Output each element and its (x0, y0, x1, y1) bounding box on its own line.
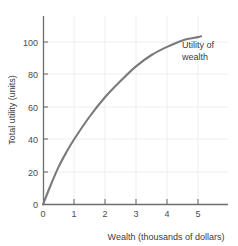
x-tick-label-4: 4 (164, 209, 169, 219)
y-tick-label-100: 100 (23, 38, 38, 48)
y-tick-label-20: 20 (28, 168, 38, 178)
x-tick-label-2: 2 (102, 209, 107, 219)
curve-annotation-line-1: Utility of (182, 40, 215, 50)
utility-of-wealth-chart: 100 80 60 40 20 0 0 1 2 3 4 5 Total util… (0, 0, 238, 246)
chart-canvas: 100 80 60 40 20 0 0 1 2 3 4 5 Total util… (0, 0, 238, 246)
y-tick-label-40: 40 (28, 135, 38, 145)
y-tick-label-0: 0 (33, 200, 38, 210)
y-tick-label-60: 60 (28, 103, 38, 113)
y-axis-title: Total utility (units) (7, 75, 17, 145)
x-tick-label-3: 3 (133, 209, 138, 219)
x-tick-label-0: 0 (40, 209, 45, 219)
x-tick-label-1: 1 (71, 209, 76, 219)
x-tick-label-5: 5 (195, 209, 200, 219)
y-tick-label-80: 80 (28, 70, 38, 80)
curve-annotation-line-2: wealth (181, 52, 208, 62)
x-axis-title: Wealth (thousands of dollars) (108, 232, 225, 242)
